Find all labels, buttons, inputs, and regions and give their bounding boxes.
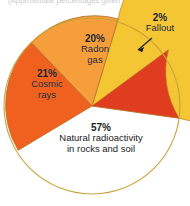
pie-chart-figure: (Approximate percentages given for each … xyxy=(0,0,190,206)
slice-label-cosmic-rays: 21% Cosmic rays xyxy=(12,68,82,100)
slice-name-radon-gas-line1: Radon xyxy=(81,43,109,54)
slice-name-fallout-line1: Fallout xyxy=(146,22,175,33)
slice-name-cosmic-rays-line1: Cosmic xyxy=(31,78,63,89)
slice-name-natural-radioactivity-line2: in rocks and soil xyxy=(67,143,135,154)
slice-name-radon-gas-line2: gas xyxy=(87,54,102,65)
slice-label-fallout: 2% Fallout xyxy=(133,12,187,34)
slice-name-cosmic-rays-line2: rays xyxy=(38,89,56,100)
slice-label-natural-radioactivity: 57% Natural radioactivity in rocks and s… xyxy=(40,122,162,154)
slice-label-radon-gas: 20% Radon gas xyxy=(58,33,132,65)
slice-name-natural-radioactivity-line1: Natural radioactivity xyxy=(59,132,142,143)
